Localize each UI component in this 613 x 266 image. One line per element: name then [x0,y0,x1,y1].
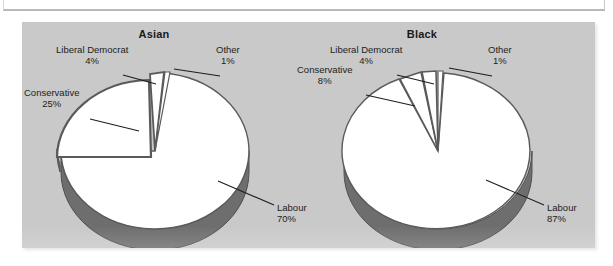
callout-label: Liberal Democrat [330,44,402,55]
callout-label: Conservative [297,64,352,75]
pie-chart-asian: Asian Liberal Democrat 4% [22,22,312,248]
callout-libdem-asian: Liberal Democrat 4% [56,44,128,66]
callout-value: 8% [297,75,352,86]
callout-value: 1% [216,55,240,66]
callout-other-asian: Other 1% [216,44,240,66]
callout-other-black: Other 1% [488,44,512,66]
callout-label: Liberal Democrat [56,44,128,55]
callout-value: 4% [56,55,128,66]
callout-value: 87% [547,213,577,224]
callout-conservative-asian: Conservative 25% [24,87,79,109]
leader-line-other-asian [174,69,220,76]
callout-value: 1% [488,55,512,66]
callout-label: Other [216,44,240,55]
callout-label: Conservative [24,87,79,98]
callout-libdem-black: Liberal Democrat 4% [330,44,402,66]
callout-label: Labour [547,202,577,213]
pie-chart-black: Black Liberal Democrat 4% Other 1 [288,22,578,248]
figure-panel: Asian Liberal Democrat 4% [22,22,595,248]
page-top-rule [3,0,605,11]
callout-value: 25% [24,98,79,109]
callout-conservative-black: Conservative 8% [297,64,352,86]
callout-labour-black: Labour 87% [547,202,577,224]
callout-label: Other [488,44,512,55]
